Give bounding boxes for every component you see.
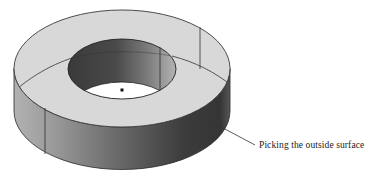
center-point [121,89,124,92]
ring-diagram: Picking the outside surface [0,0,374,176]
annotation-label: Picking the outside surface [259,140,364,150]
